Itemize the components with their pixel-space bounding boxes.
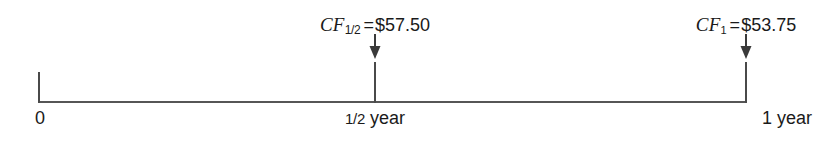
- cash-flow-subscript-half: 1/2: [345, 24, 361, 36]
- equals-sign-half: =: [360, 15, 375, 35]
- cash-flow-subscript-one: 1: [720, 24, 726, 36]
- timeline-axis-line: [38, 101, 747, 103]
- cash-flow-symbol-one: CF: [696, 14, 721, 35]
- axis-tick-label-one-year: 1year: [762, 107, 812, 129]
- half-fraction-text: 1/2: [345, 110, 365, 127]
- cash-flow-timeline-figure: CF1/2=$57.50 CF1=$53.75 0 1/2year 1year: [0, 0, 838, 144]
- equals-sign-one: =: [727, 15, 742, 35]
- cash-flow-label-half-year: CF1/2=$57.50: [320, 14, 430, 41]
- cash-flow-amount-half: $57.50: [375, 15, 430, 35]
- axis-tick-label-half-year: 1/2year: [345, 107, 405, 130]
- one-year-unit-text: year: [777, 108, 812, 128]
- axis-tick-label-zero: 0: [35, 107, 45, 129]
- tick-mark-one-year: [745, 62, 747, 103]
- cash-flow-label-one-year: CF1=$53.75: [696, 14, 796, 41]
- cash-flow-amount-one: $53.75: [741, 15, 796, 35]
- one-number-text: 1: [762, 108, 772, 128]
- cash-flow-symbol-half: CF: [320, 14, 345, 35]
- tick-mark-zero: [38, 72, 40, 103]
- tick-mark-half-year: [374, 62, 376, 103]
- half-year-unit-text: year: [370, 108, 405, 128]
